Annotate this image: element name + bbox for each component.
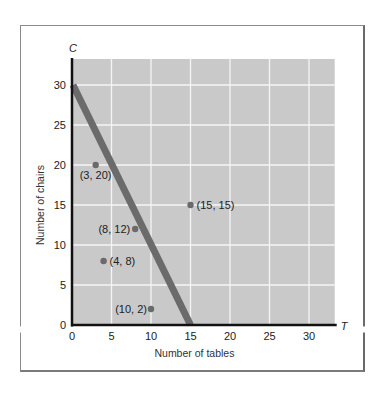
data-point-label: (8, 12) — [98, 223, 130, 235]
data-point-label: (10, 2) — [115, 303, 147, 315]
x-tick-label: 20 — [224, 330, 236, 342]
x-tick-label: 10 — [145, 330, 157, 342]
data-point — [132, 226, 138, 232]
data-point-label: (15, 15) — [197, 199, 235, 211]
x-tick-label: 25 — [263, 330, 275, 342]
x-tick-label: 5 — [108, 330, 114, 342]
data-point-label: (3, 20) — [80, 169, 112, 181]
y-tick-label: 20 — [54, 159, 66, 171]
data-point — [100, 258, 106, 264]
data-point — [93, 162, 99, 168]
x-tick-label: 0 — [69, 330, 75, 342]
x-axis-label: Number of tables — [154, 347, 234, 359]
y-tick-label: 10 — [54, 239, 66, 251]
y-tick-label: 30 — [54, 79, 66, 91]
scatter-chart: CT051015202530051015202530Number of tabl… — [0, 0, 384, 393]
y-axis-symbol: C — [69, 42, 77, 54]
y-axis-label: Number of chairs — [34, 165, 46, 245]
y-tick-label: 5 — [60, 279, 66, 291]
data-point — [187, 202, 193, 208]
x-tick-label: 15 — [184, 330, 196, 342]
y-tick-label: 25 — [54, 119, 66, 131]
y-tick-label: 0 — [60, 319, 66, 331]
y-tick-label: 15 — [54, 199, 66, 211]
data-point — [148, 306, 154, 312]
x-tick-label: 30 — [303, 330, 315, 342]
data-point-label: (4, 8) — [110, 255, 136, 267]
